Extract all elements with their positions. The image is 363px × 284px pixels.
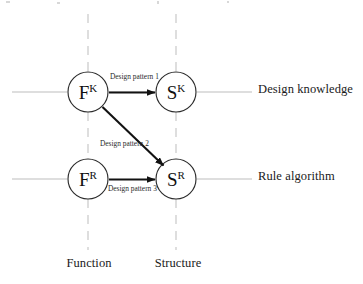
- row-label-design-knowledge: Design knowledge: [258, 82, 353, 97]
- column-label-structure: Structure: [146, 256, 210, 271]
- diagram-svg: FK SK FR SR Design pattern 1 Design patt…: [0, 0, 363, 284]
- node-fk-superscript: K: [89, 82, 97, 94]
- column-label-function: Function: [58, 256, 120, 271]
- node-sr-superscript: R: [178, 169, 186, 181]
- node-sk-superscript: K: [177, 82, 185, 94]
- row-label-rule-algorithm: Rule algorithm: [258, 169, 335, 184]
- node-sk-base: S: [167, 82, 178, 103]
- edge-design-pattern-2-label: Design pattern 2: [100, 139, 149, 148]
- node-fr-superscript: R: [90, 169, 98, 181]
- edge-design-pattern-2-arrow[interactable]: [103, 107, 164, 166]
- edge-design-pattern-3-label: Design pattern 3: [108, 184, 157, 193]
- node-sr-base: S: [167, 169, 178, 190]
- column-axis-lines: [88, 14, 176, 250]
- node-fr-base: F: [79, 169, 90, 190]
- diagram-edges: [103, 93, 164, 180]
- diagram-canvas: FK SK FR SR Design pattern 1 Design patt…: [0, 0, 363, 284]
- node-fk-base: F: [79, 82, 90, 103]
- edge-design-pattern-1-label: Design pattern 1: [110, 72, 159, 81]
